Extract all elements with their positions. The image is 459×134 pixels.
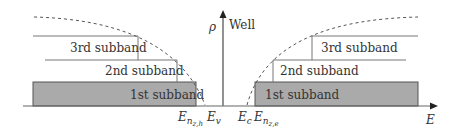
- y-axis-arrow-icon: [220, 10, 227, 18]
- density-of-states-diagram: ρ Well E 3rd subband 2nd subband 1st sub…: [0, 0, 459, 134]
- e-v-label: Ev: [206, 110, 221, 126]
- right-1st-subband-label: 1st subband: [265, 88, 340, 102]
- left-2nd-subband-label: 2nd subband: [105, 64, 184, 78]
- y-axis-label: ρ: [208, 20, 216, 34]
- left-3rd-subband-label: 3rd subband: [70, 41, 147, 55]
- well-label: Well: [229, 18, 255, 32]
- e-c-label: Ec: [237, 110, 252, 126]
- e-nze-label: Enz,e: [253, 110, 279, 128]
- left-1st-subband-label: 1st subband: [130, 88, 205, 102]
- e-nzh-label: Enz,h: [177, 110, 203, 128]
- right-3rd-subband-label: 3rd subband: [321, 41, 398, 55]
- right-2nd-subband-label: 2nd subband: [280, 64, 359, 78]
- x-axis-label: E: [425, 113, 435, 127]
- x-axis-arrow-icon: [430, 103, 438, 110]
